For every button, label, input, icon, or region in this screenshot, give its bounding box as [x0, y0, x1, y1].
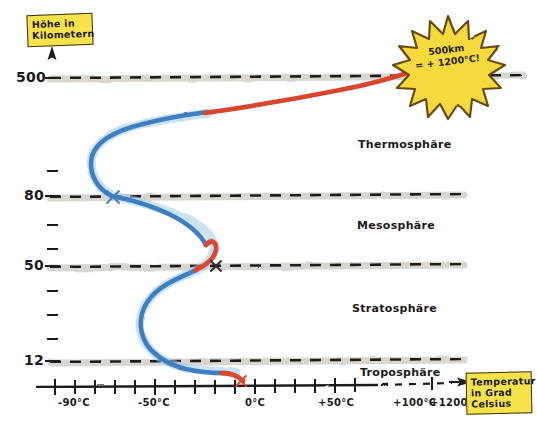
sunburst-badge [393, 16, 505, 119]
y-tick-label-12: 12 [16, 352, 44, 368]
diagram-canvas: 500 80 50 12 -90°C -50°C 0°C +50°C +100°… [0, 0, 537, 430]
layer-label-mesosphaere: Mesosphäre [357, 219, 435, 232]
y-tick-label-50: 50 [16, 257, 44, 273]
layer-label-troposphaere: Troposphäre [360, 366, 441, 379]
y-axis-title-line2: Kilometern [32, 28, 88, 41]
x-tick-label-zero: 0°C [245, 397, 265, 408]
x-tick-label-plus50: +50°C [318, 397, 354, 408]
x-tick-label-minus50: -50°C [138, 397, 170, 408]
layer-label-stratosphaere: Stratosphäre [352, 302, 437, 315]
y-tick-label-500: 500 [16, 69, 44, 85]
y-tick-label-80: 80 [16, 187, 44, 203]
x-axis-title-note: Temperatur in Grad Celsius [466, 371, 533, 414]
x-tick-label-minus90: -90°C [58, 397, 90, 408]
boundary-line-shadows [50, 76, 524, 363]
layer-label-thermosphaere: Thermosphäre [358, 138, 451, 151]
y-axis-title-note: Höhe in Kilometern [26, 13, 93, 48]
x-axis-title-line3: Celsius [471, 398, 527, 410]
temperature-curve-blue [91, 112, 222, 373]
x-axis-title-line1: Temperatur [471, 375, 527, 387]
diagram-svg [0, 0, 537, 430]
